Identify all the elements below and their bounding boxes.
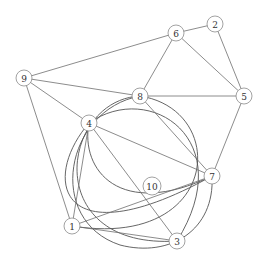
edge-2-5 bbox=[215, 24, 244, 96]
edge-8-7 bbox=[140, 96, 212, 176]
node-label: 2 bbox=[212, 20, 218, 30]
node-label: 9 bbox=[21, 74, 27, 84]
graph-diagram: 12345678910 bbox=[0, 0, 269, 264]
arc-edge-4-7 bbox=[65, 123, 212, 212]
edge-9-4 bbox=[24, 78, 89, 123]
edge-4-3 bbox=[89, 123, 177, 241]
edge-5-7 bbox=[212, 96, 244, 176]
node-4: 4 bbox=[81, 115, 97, 131]
node-label: 4 bbox=[86, 119, 92, 129]
node-label: 8 bbox=[137, 92, 143, 102]
edge-9-6 bbox=[24, 33, 176, 78]
node-label: 7 bbox=[209, 172, 215, 182]
node-9: 9 bbox=[16, 70, 32, 86]
node-label: 6 bbox=[173, 29, 179, 39]
edge-9-1 bbox=[24, 78, 72, 226]
node-8: 8 bbox=[132, 88, 148, 104]
edge-1-7 bbox=[72, 176, 212, 226]
node-label: 10 bbox=[146, 182, 158, 192]
node-6: 6 bbox=[168, 25, 184, 41]
node-label: 3 bbox=[174, 237, 180, 247]
edge-4-1 bbox=[72, 123, 89, 226]
node-1: 1 bbox=[64, 218, 80, 234]
node-5: 5 bbox=[236, 88, 252, 104]
nodes: 12345678910 bbox=[16, 16, 252, 249]
arc-edge-4-3 bbox=[89, 109, 198, 241]
node-3: 3 bbox=[169, 233, 185, 249]
edge-1-3 bbox=[72, 226, 177, 241]
edge-6-5 bbox=[176, 33, 244, 96]
node-label: 5 bbox=[241, 92, 247, 102]
node-10: 10 bbox=[143, 177, 161, 195]
edge-9-8 bbox=[24, 78, 140, 96]
node-label: 1 bbox=[69, 222, 75, 232]
node-2: 2 bbox=[207, 16, 223, 32]
node-7: 7 bbox=[204, 168, 220, 184]
